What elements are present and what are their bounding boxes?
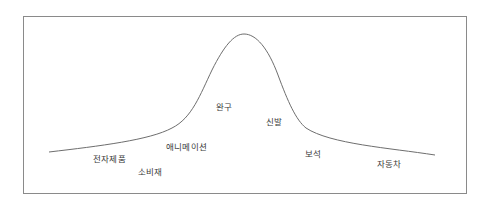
label-animation: 애니메이션 <box>166 140 207 152</box>
label-jewelry: 보석 <box>305 147 321 159</box>
label-toys: 완구 <box>216 100 232 112</box>
bell-curve <box>0 0 489 210</box>
label-automobiles: 자동차 <box>377 157 402 169</box>
curve-line <box>49 34 435 155</box>
label-electronics: 전자제품 <box>93 152 126 164</box>
label-shoes: 신발 <box>266 115 282 127</box>
label-consumer-goods: 소비재 <box>138 165 163 177</box>
